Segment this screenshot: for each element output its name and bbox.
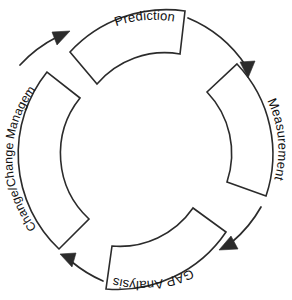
arrow-gap-analysis-to-change-management (60, 253, 103, 281)
arrow-prediction-to-measurement (188, 18, 255, 78)
arrow-gap-analysis-to-change-management-head (60, 253, 76, 267)
segment-gap-analysis: GAP Analysis (106, 208, 226, 293)
arrow-measurement-to-gap-analysis-line (232, 207, 261, 242)
arrow-gap-analysis-to-change-management-line (72, 262, 103, 281)
arrow-measurement-to-gap-analysis (219, 207, 261, 250)
cycle-diagram-canvas: Prediction Measurement GAP Analysis Chan… (0, 0, 292, 300)
arrow-change-management-to-prediction-line (20, 37, 57, 65)
arrow-change-management-to-prediction (20, 31, 70, 65)
segment-change-management: Change/Change Management (0, 0, 89, 249)
arrow-change-management-to-prediction-head (52, 31, 70, 45)
segment-prediction: Prediction (70, 8, 185, 84)
arrow-prediction-to-measurement-line (188, 18, 246, 66)
segment-measurement-shape (207, 64, 273, 196)
segment-measurement: Measurement (207, 64, 290, 196)
cycle-diagram: Prediction Measurement GAP Analysis Chan… (0, 0, 292, 300)
